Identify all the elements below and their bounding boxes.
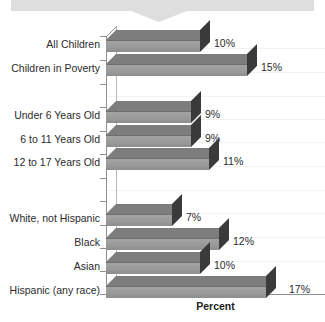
bar-top-face (106, 204, 182, 214)
top-banner (11, 0, 314, 11)
bar-value-label: 10% (214, 36, 235, 50)
axis-tick (100, 201, 107, 202)
bar-top-face (106, 148, 219, 158)
bar-front-face (106, 214, 172, 226)
bar-category-label: Black (0, 235, 100, 249)
bar-shape[interactable] (106, 158, 209, 170)
bar-value-label: 12% (233, 234, 254, 248)
bar-row[interactable]: Black 12% (0, 234, 325, 250)
bar-front-face (106, 135, 191, 147)
bar-row[interactable]: Children in Poverty 15% (0, 60, 325, 76)
bar-top-face (106, 54, 257, 64)
bar-front-face (106, 158, 209, 170)
bar-shape[interactable] (106, 135, 191, 147)
bar-value-label: 15% (261, 60, 282, 74)
bar-category-label: Children in Poverty (0, 61, 100, 75)
bar-shape[interactable] (106, 64, 247, 76)
bar-front-face (106, 262, 200, 274)
bar-value-label: 9% (205, 107, 220, 121)
bar-shape[interactable] (106, 286, 266, 298)
bar-row[interactable]: Under 6 Years Old 9% (0, 107, 325, 123)
gridline (106, 96, 325, 97)
bar-value-label: 11% (223, 154, 243, 168)
bar-row[interactable]: Hispanic (any race) 17% (0, 282, 325, 298)
bar-shape[interactable] (106, 40, 200, 52)
bar-category-label: Asian (0, 259, 100, 273)
banner-notch-icon (131, 11, 187, 22)
bar-end-cap (200, 20, 210, 52)
bar-front-face (106, 111, 191, 123)
bar-top-face (106, 101, 201, 111)
bar-chart: All Children 10% Children in Poverty 15%… (0, 22, 325, 322)
bar-category-label: 12 to 17 Years Old (0, 155, 100, 169)
bar-shape[interactable] (106, 214, 172, 226)
plot-area: All Children 10% Children in Poverty 15%… (0, 22, 325, 322)
bar-shape[interactable] (106, 111, 191, 123)
bar-value-label: 10% (214, 258, 235, 272)
bar-front-face (106, 40, 200, 52)
bar-front-face (106, 64, 247, 76)
axis-tick (100, 178, 107, 179)
bar-category-label: Hispanic (any race) (0, 283, 100, 297)
x-axis-title: Percent (106, 300, 325, 312)
bar-row[interactable]: 6 to 11 Years Old 9% (0, 131, 325, 147)
bar-category-label: 6 to 11 Years Old (0, 132, 100, 146)
bar-row[interactable]: All Children 10% (0, 36, 325, 52)
bar-top-face (106, 252, 210, 262)
bar-top-face (106, 30, 210, 40)
bar-row[interactable]: 12 to 17 Years Old 11% (0, 154, 325, 170)
bar-shape[interactable] (106, 262, 200, 274)
bar-row[interactable]: White, not Hispanic 7% (0, 210, 325, 226)
gridline (106, 190, 325, 191)
axis-tick (100, 84, 107, 85)
bar-top-face (106, 125, 201, 135)
bar-row[interactable]: Asian 10% (0, 258, 325, 274)
bar-front-face (106, 286, 266, 298)
bar-value-label: 7% (186, 210, 201, 224)
bar-category-label: White, not Hispanic (0, 211, 100, 225)
bar-top-face (106, 276, 276, 286)
bar-top-face (106, 228, 229, 238)
bar-category-label: Under 6 Years Old (0, 108, 100, 122)
bar-category-label: All Children (0, 37, 100, 51)
bar-end-cap (172, 194, 182, 226)
bar-value-label: 17% (289, 282, 310, 296)
